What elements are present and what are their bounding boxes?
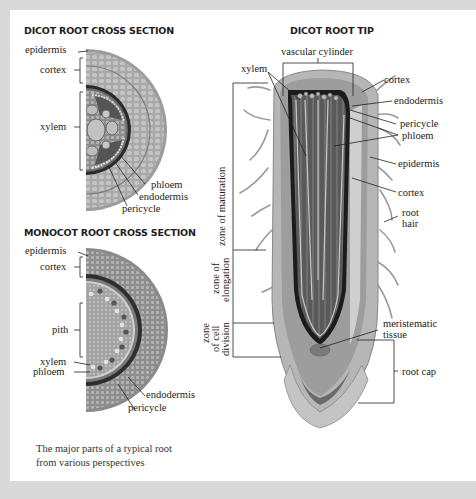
label-root-hair-line1: root xyxy=(402,207,419,218)
label-meristematic-line1: meristematic xyxy=(383,318,437,329)
label-dicot-endodermis: endodermis xyxy=(139,191,188,202)
dicot-cross-section-drawing xyxy=(5,49,167,211)
label-monocot-endodermis: endodermis xyxy=(146,389,195,400)
label-tip-cortex-top: cortex xyxy=(384,74,410,85)
caption-line-2: from various perspectives xyxy=(36,456,236,470)
label-root-cap: root cap xyxy=(402,366,436,377)
figure-caption: The major parts of a typical root from v… xyxy=(36,442,236,470)
label-monocot-pericycle: pericycle xyxy=(128,402,166,413)
label-dicot-phloem: phloem xyxy=(151,179,183,190)
label-tip-pericycle: pericycle xyxy=(400,118,438,129)
label-dicot-epidermis: epidermis xyxy=(25,44,66,55)
label-tip-xylem: xylem xyxy=(241,63,267,74)
monocot-cross-section-title: MONOCOT ROOT CROSS SECTION xyxy=(24,227,196,238)
label-monocot-cortex: cortex xyxy=(40,261,66,272)
label-tip-epidermis: epidermis xyxy=(398,158,439,169)
dicot-root-tip-drawing xyxy=(240,70,400,428)
label-tip-cortex: cortex xyxy=(398,187,424,198)
label-dicot-xylem: xylem xyxy=(40,121,66,132)
label-zone-maturation: zone of maturation xyxy=(216,167,227,246)
label-monocot-epidermis: epidermis xyxy=(25,245,66,256)
monocot-cross-section-drawing xyxy=(4,248,168,412)
label-monocot-phloem: phloem xyxy=(33,366,65,377)
label-tip-phloem: phloem xyxy=(402,130,434,141)
dicot-root-tip-title: DICOT ROOT TIP xyxy=(290,25,374,36)
label-zone-division-line3: division xyxy=(220,322,231,356)
label-dicot-cortex: cortex xyxy=(40,64,66,75)
label-meristematic-line2: tissue xyxy=(383,329,407,340)
caption-line-1: The major parts of a typical root xyxy=(36,442,236,456)
label-root-hair-line2: hair xyxy=(402,218,418,229)
label-zone-elongation-line2: elongation xyxy=(220,258,231,302)
label-vascular-cylinder: vascular cylinder xyxy=(281,46,353,57)
label-tip-endodermis: endodermis xyxy=(394,95,443,106)
dicot-cross-section-title: DICOT ROOT CROSS SECTION xyxy=(24,25,174,36)
label-dicot-pericycle: pericycle xyxy=(122,203,160,214)
label-monocot-pith: pith xyxy=(52,324,68,335)
